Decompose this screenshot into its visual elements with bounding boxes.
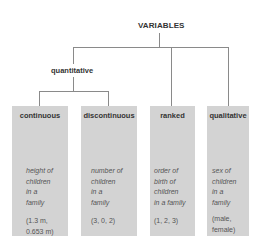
- description-ranked: order of birth of children in a family: [154, 166, 186, 208]
- example-continuous: (1.3 m, 0.653 m): [26, 216, 54, 237]
- quantitative-label: quantitative: [51, 66, 93, 75]
- connector-continuous-drop: [39, 91, 40, 106]
- connector-quantitative-stem: [73, 77, 74, 91]
- heading-qualitative: qualitative: [207, 111, 249, 120]
- connector-ranked-drop: [171, 47, 172, 106]
- heading-discontinuous: discontinuous: [81, 111, 137, 120]
- connector-quantitative-drop: [73, 47, 74, 64]
- connector-discontinuous-drop: [108, 91, 109, 106]
- example-ranked: (1, 2, 3): [154, 216, 178, 227]
- root-label: VARIABLES: [138, 21, 185, 30]
- heading-ranked: ranked: [150, 111, 195, 120]
- description-discontinuous: number of children in a family: [91, 166, 123, 208]
- connector-root-bar: [73, 47, 229, 48]
- connector-root-stem: [159, 33, 160, 47]
- box-qualitative: qualitative sex of children in a family …: [207, 106, 249, 236]
- description-continuous: height of children in a family: [26, 166, 53, 208]
- description-qualitative: sex of children in a family: [212, 166, 237, 208]
- example-discontinuous: (3, 0, 2): [91, 216, 115, 227]
- box-discontinuous: discontinuous number of children in a fa…: [81, 106, 137, 236]
- heading-continuous: continuous: [12, 111, 68, 120]
- box-continuous: continuous height of children in a famil…: [12, 106, 68, 236]
- connector-quantitative-bar: [39, 91, 109, 92]
- example-qualitative: (male, female): [212, 214, 235, 235]
- connector-qualitative-drop: [228, 47, 229, 106]
- box-ranked: ranked order of birth of children in a f…: [150, 106, 195, 236]
